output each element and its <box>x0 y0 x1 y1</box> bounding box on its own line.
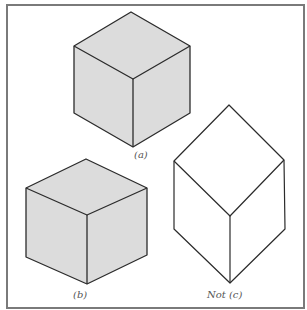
label-c: Not (c) <box>207 289 242 300</box>
label-b: (b) <box>73 289 87 300</box>
cube-a <box>74 12 190 147</box>
figure-canvas <box>0 0 307 310</box>
cube-b <box>26 159 147 284</box>
cube-a-outline <box>74 12 190 147</box>
shape-c <box>174 105 285 283</box>
label-a: (a) <box>134 149 148 160</box>
